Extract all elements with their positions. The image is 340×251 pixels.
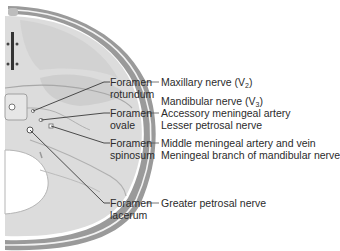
label-foramen-spinosum: Foramen spinosum [110, 137, 155, 161]
foramen-name-line2: rotundum [110, 88, 154, 100]
foramen-name-line1: Foramen [110, 137, 155, 149]
label-foramen-ovale: Foramen ovale [110, 107, 152, 131]
contents-foramen-spinosum: Middle meningeal artery and vein Meninge… [161, 137, 340, 161]
foramen-name-line2: spinosum [110, 149, 155, 161]
content-item: Middle meningeal artery and vein [161, 137, 340, 149]
contents-foramen-rotundum: Maxillary nerve (V2) [161, 76, 252, 88]
content-item: Greater petrosal nerve [161, 197, 266, 209]
foramen-name-line1: Foramen [110, 107, 152, 119]
content-item: Maxillary nerve (V2) [161, 76, 252, 88]
content-item: Accessory meningeal artery [161, 107, 291, 119]
foramen-name-line1: Foramen [110, 76, 154, 88]
contents-foramen-ovale: Mandibular nerve (V3) Accessory meningea… [161, 95, 291, 131]
contents-foramen-lacerum: Greater petrosal nerve [161, 197, 266, 209]
content-item: Meningeal branch of mandibular nerve [161, 149, 340, 161]
label-foramen-lacerum: Foramen lacerum [110, 197, 152, 221]
content-item: Mandibular nerve (V3) [161, 95, 291, 107]
foramen-name-line1: Foramen [110, 197, 152, 209]
foramen-name-line2: lacerum [110, 209, 152, 221]
foramen-name-line2: ovale [110, 119, 152, 131]
content-item: Lesser petrosal nerve [161, 119, 291, 131]
label-foramen-rotundum: Foramen rotundum [110, 76, 154, 100]
